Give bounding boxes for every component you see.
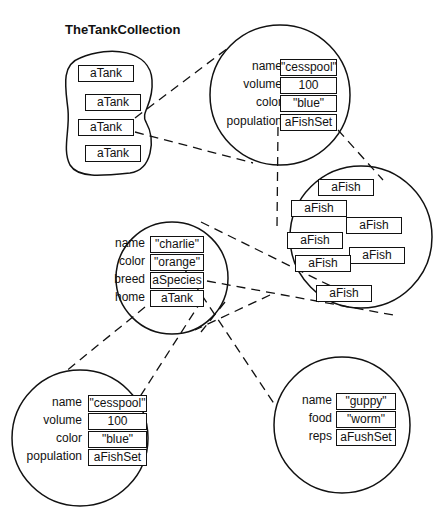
- field-value[interactable]: "blue": [88, 431, 147, 448]
- field-label: reps: [290, 429, 332, 444]
- field-value[interactable]: aSpecies: [150, 272, 204, 289]
- field-label: home: [100, 290, 145, 305]
- field-label: name: [20, 395, 82, 410]
- fish-set-item[interactable]: aFish: [291, 200, 347, 217]
- fish-set-item[interactable]: aFish: [349, 247, 405, 264]
- collection-item[interactable]: aTank: [78, 65, 134, 82]
- field-label: population: [10, 449, 82, 464]
- field-value[interactable]: aFishSet: [88, 449, 147, 466]
- field-label: name: [290, 393, 332, 408]
- fish-set-item[interactable]: aFish: [318, 179, 374, 196]
- field-value[interactable]: "worm": [336, 411, 396, 428]
- field-value[interactable]: "orange": [150, 254, 204, 271]
- field-value[interactable]: "cesspool": [280, 59, 337, 76]
- field-label: volume: [220, 77, 282, 92]
- collection-item[interactable]: aTank: [85, 94, 141, 111]
- field-label: color: [220, 95, 282, 110]
- field-value[interactable]: aTank: [150, 290, 204, 307]
- fish-set-item[interactable]: aFish: [287, 232, 343, 249]
- field-label: volume: [20, 413, 82, 428]
- field-label: population: [210, 114, 282, 129]
- field-value[interactable]: "cesspool": [88, 395, 147, 412]
- field-label: breed: [100, 272, 145, 287]
- fish-set-item[interactable]: aFish: [316, 285, 372, 302]
- fish-set-item[interactable]: aFish: [295, 255, 351, 272]
- collection-item[interactable]: aTank: [78, 119, 134, 136]
- field-label: food: [290, 411, 332, 426]
- field-label: name: [220, 59, 282, 74]
- field-label: name: [100, 236, 145, 251]
- field-label: color: [100, 254, 145, 269]
- field-value[interactable]: aFushSet: [336, 429, 396, 446]
- field-value[interactable]: "guppy": [336, 393, 396, 410]
- collection-item[interactable]: aTank: [85, 145, 141, 162]
- field-value[interactable]: "charlie": [150, 236, 204, 253]
- field-value[interactable]: aFishSet: [280, 114, 337, 131]
- field-value[interactable]: 100: [280, 77, 337, 94]
- fish-set-item[interactable]: aFish: [346, 217, 402, 234]
- collection-title: TheTankCollection: [65, 22, 180, 37]
- field-label: color: [20, 431, 82, 446]
- field-value[interactable]: 100: [88, 413, 147, 430]
- field-value[interactable]: "blue": [280, 95, 337, 112]
